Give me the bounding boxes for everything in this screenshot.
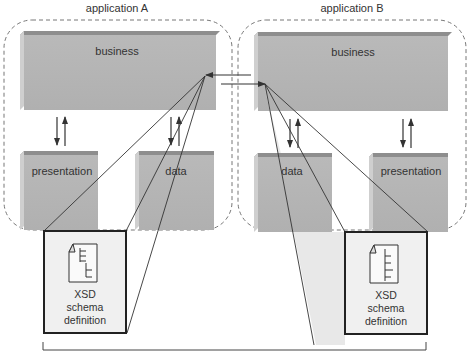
data-layer-b: data bbox=[254, 153, 332, 232]
application-b-lower: data presentation bbox=[254, 119, 448, 232]
presentation-layer-b: presentation bbox=[369, 153, 448, 232]
business-label-a: business bbox=[95, 45, 139, 57]
schema-line1-a: XSD bbox=[74, 288, 96, 300]
application-a-title: application A bbox=[86, 2, 149, 14]
presentation-label-a: presentation bbox=[32, 165, 93, 177]
schema-line3-a: definition bbox=[64, 314, 106, 326]
architecture-diagram: application A business presentation data bbox=[0, 0, 470, 354]
document-icon bbox=[370, 245, 398, 283]
business-layer-a: business bbox=[20, 31, 220, 110]
schema-line2-b: schema bbox=[368, 302, 405, 314]
application-a: application A business presentation data bbox=[4, 2, 232, 230]
business-layer-b: business bbox=[254, 32, 452, 111]
business-label-b: business bbox=[331, 46, 375, 58]
schema-definition-a: XSD schema definition bbox=[44, 231, 126, 333]
bottom-bracket bbox=[43, 342, 426, 350]
presentation-label-b: presentation bbox=[381, 165, 442, 177]
data-label-b: data bbox=[281, 165, 303, 177]
schema-definition-b: XSD schema definition bbox=[345, 232, 427, 334]
schema-line2-a: schema bbox=[67, 301, 104, 313]
document-icon bbox=[69, 244, 97, 282]
schema-line1-b: XSD bbox=[375, 289, 397, 301]
schema-line3-b: definition bbox=[365, 315, 407, 327]
application-b-title: application B bbox=[321, 2, 384, 14]
